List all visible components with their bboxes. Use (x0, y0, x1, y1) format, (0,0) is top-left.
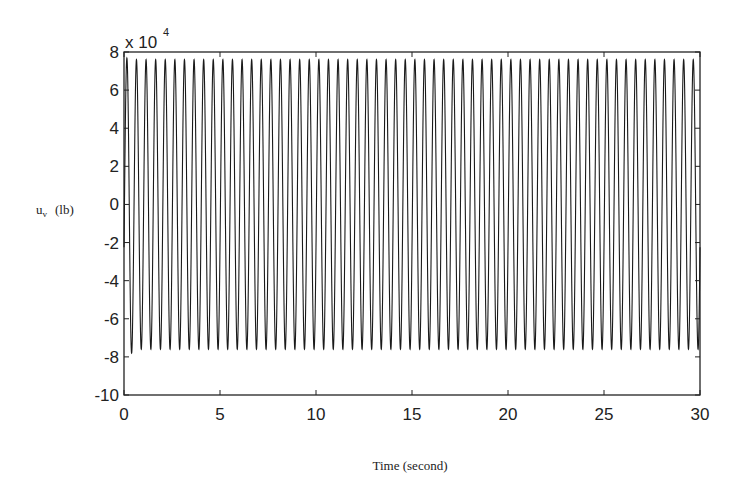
y-multiplier-exponent: 4 (163, 26, 169, 38)
y-tick-label: 8 (110, 43, 119, 62)
y-tick-label: -6 (104, 310, 119, 329)
x-tick-label: 25 (595, 405, 614, 424)
y-tick-label: 2 (110, 157, 119, 176)
x-tick-label: 5 (215, 405, 224, 424)
y-multiplier: x 10 (125, 33, 157, 52)
x-tick-label: 0 (119, 405, 128, 424)
y-tick-label: 4 (110, 119, 119, 138)
x-axis-ticks: 051015202530 (119, 52, 709, 424)
y-axis-label: uv(lb) (36, 202, 74, 219)
x-tick-label: 30 (691, 405, 710, 424)
x-tick-label: 15 (403, 405, 422, 424)
chart: 051015202530 86420-2-4-6-8-10 x 10 4 uv(… (0, 0, 746, 495)
y-tick-label: -2 (104, 234, 119, 253)
y-tick-label: -8 (104, 348, 119, 367)
y-tick-label: -4 (104, 272, 119, 291)
signal-line (124, 58, 700, 353)
y-tick-label: -10 (94, 386, 119, 405)
y-tick-label: 0 (110, 195, 119, 214)
x-axis-label: Time (second) (373, 458, 448, 473)
x-tick-label: 10 (307, 405, 326, 424)
x-tick-label: 20 (499, 405, 518, 424)
y-tick-label: 6 (110, 81, 119, 100)
